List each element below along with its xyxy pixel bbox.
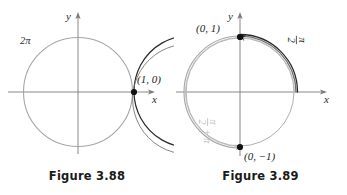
figure-caption-3-89: Figure 3.89 (174, 169, 347, 183)
point-label-0-1: (0, 1) (196, 22, 220, 35)
y-axis-label-3-88: y (65, 10, 71, 22)
start-point-marker-3-88 (131, 89, 137, 95)
x-axis-3-89 (176, 89, 327, 94)
x-axis-label-3-89: x (323, 93, 329, 105)
quarter-turn-point-marker-3-89 (237, 34, 243, 40)
figure-caption-3-88: Figure 3.88 (0, 169, 174, 183)
figure-3-88-graphic: (1, 0) 2π y x (0, 4, 174, 164)
figure-3-89-graphic: (0, 1) (0, −1) π 2 π 2 + π y x (174, 4, 347, 164)
figure-panel-3-89: (0, 1) (0, −1) π 2 π 2 + π y x Figure 3.… (174, 0, 347, 195)
x-axis-label-3-88: x (151, 93, 157, 105)
figure-sheet: (1, 0) 2π y x Figure 3.88 (0, 0, 347, 195)
pi-over-two-numerator: π (297, 37, 308, 43)
pi-over-two-denominator: 2 (286, 37, 297, 43)
y-axis-label-3-89: y (227, 10, 233, 22)
pi-over-two-arc-inner-3-89 (240, 36, 296, 92)
figure-panel-3-88: (1, 0) 2π y x Figure 3.88 (0, 0, 174, 195)
y-axis-3-89 (237, 12, 242, 156)
arc-label-two-pi: 2π (20, 35, 31, 46)
arc-label-pi-over-two: π 2 (286, 36, 309, 44)
point-label-1-0: (1, 0) (137, 73, 161, 86)
point-label-0-neg1: (0, −1) (244, 150, 276, 163)
full-revolution-arc-3-88 (134, 36, 174, 148)
y-axis-3-88 (75, 12, 80, 154)
three-quarter-turn-point-marker-3-89 (237, 144, 243, 150)
pi-over-two-plus-pi-suffix: + π (202, 129, 213, 144)
pi-over-two-plus-pi-numerator: π (208, 119, 219, 125)
pi-over-two-plus-pi-denominator: 2 (197, 120, 208, 125)
